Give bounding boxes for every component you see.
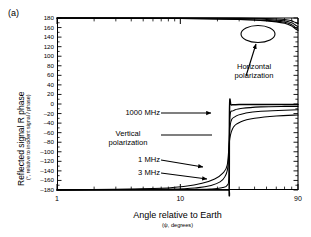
annotation-horizontal-line1: Horizontal — [218, 62, 290, 71]
y-tick-label: 60 — [47, 72, 54, 78]
y-tick-label: 160 — [44, 25, 54, 31]
y-tick-label: 0 — [51, 101, 54, 107]
y-tick-label: –20 — [44, 111, 54, 117]
plot-area — [57, 18, 298, 190]
y-tick-label: –100 — [40, 149, 54, 155]
y-tick-label: 180 — [44, 15, 54, 21]
annotation-label-1000mhz: 1000 MHz — [88, 108, 160, 117]
x-axis-title: Angle relative to Earth — [57, 210, 298, 220]
annotation-label-3mhz: 3 MHz — [100, 168, 160, 177]
x-axis-subtitle: (ψ, degrees) — [57, 222, 298, 228]
figure-panel-a: (a) Reflected signal R phase (°, relativ… — [0, 0, 311, 237]
annotation-vertical-polarization: Vertical polarization — [96, 129, 160, 147]
annotation-label-1mhz: 1 MHz — [100, 155, 160, 164]
annotation-horizontal-line2: polarization — [218, 71, 290, 80]
y-tick-label: 100 — [44, 53, 54, 59]
y-tick-label: –60 — [44, 130, 54, 136]
y-tick-label: –140 — [40, 168, 54, 174]
y-tick-label: –180 — [40, 187, 54, 193]
x-tick-label: 1 — [45, 195, 69, 202]
y-axis-title-group: Reflected signal R phase (°, relative to… — [0, 28, 26, 188]
y-tick-label: 120 — [44, 44, 54, 50]
annotation-leaders — [57, 18, 298, 190]
x-tick-label: 10 — [168, 195, 192, 202]
y-tick-label: 40 — [47, 82, 54, 88]
y-tick-label: –120 — [40, 158, 54, 164]
annotation-vertical-line1: Vertical — [96, 129, 160, 138]
x-tick-label: 90 — [286, 195, 310, 202]
annotation-horizontal-polarization: Horizontal polarization — [218, 62, 290, 80]
panel-label: (a) — [8, 8, 19, 18]
annotation-vertical-line2: polarization — [96, 138, 160, 147]
y-tick-label: 80 — [47, 63, 54, 69]
y-tick-label: –160 — [40, 177, 54, 183]
y-tick-label: 20 — [47, 91, 54, 97]
y-tick-label: 140 — [44, 34, 54, 40]
y-tick-label: –40 — [44, 120, 54, 126]
y-tick-label: –80 — [44, 139, 54, 145]
